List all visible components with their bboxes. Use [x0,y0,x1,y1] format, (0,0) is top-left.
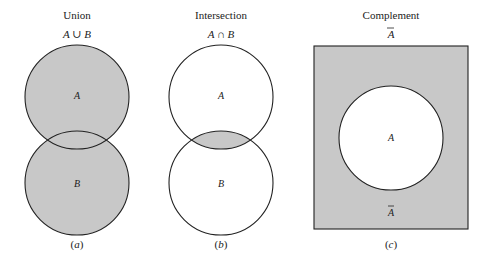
intersection-caption: (b) [215,238,228,251]
union-label-b: B [74,178,80,189]
union-expression: A ∪ B [62,28,91,40]
set-operations-diagram: Union A ∪ B A B (a) Intersection A ∩ B A… [0,0,487,263]
panel-intersection: Intersection A ∩ B A B (b) [169,9,273,251]
intersection-expression: A ∩ B [207,28,235,40]
union-label-a: A [73,90,81,101]
intersection-title: Intersection [195,9,247,21]
union-title: Union [63,9,91,21]
complement-expression: A [387,28,395,40]
panel-union: Union A ∪ B A B (a) [25,9,129,251]
complement-label-outer: A [387,207,395,218]
panel-complement: Complement A A A (c) [314,9,468,251]
complement-title: Complement [363,9,420,21]
intersection-label-b: B [218,178,224,189]
union-caption: (a) [71,238,84,251]
complement-caption: (c) [385,238,398,251]
complement-label-inner: A [387,132,395,143]
intersection-label-a: A [217,90,225,101]
